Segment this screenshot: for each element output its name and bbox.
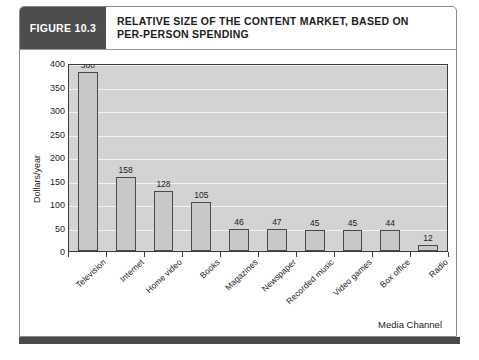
y-axis-tick-350: 350 [36, 83, 65, 93]
x-axis-label: Books [198, 257, 222, 280]
decorative-bottom-band [19, 337, 460, 344]
bar-slot: 45 [334, 65, 372, 251]
x-axis-label: Box office [378, 257, 412, 290]
figure-number-badge: FIGURE 10.3 [20, 7, 106, 49]
bar [229, 229, 249, 251]
bar [418, 245, 438, 251]
chart-area: Dollars/year 050100150200250300350400 38… [20, 50, 456, 338]
bar-slot: 45 [296, 65, 334, 251]
x-axis-label: Newspaper [260, 257, 298, 294]
y-axis-tick-200: 200 [36, 153, 65, 163]
bar-value-label: 47 [258, 217, 296, 227]
bar-value-label: 105 [182, 190, 220, 200]
bar [305, 230, 325, 251]
bar-value-label: 128 [145, 179, 183, 189]
y-axis-tick-250: 250 [36, 130, 65, 140]
x-axis-label: Radio [427, 257, 450, 279]
bar-slot: 46 [220, 65, 258, 251]
x-axis-label: Television [74, 257, 108, 290]
bar-value-label: 46 [220, 217, 258, 227]
y-axis-tick-50: 50 [36, 224, 65, 234]
bar [267, 229, 287, 251]
bar [78, 72, 98, 251]
bar-slot: 105 [182, 65, 220, 251]
bar-slot: 128 [145, 65, 183, 251]
bar-slot: 380 [69, 65, 107, 251]
figure-title-line-2: PER-PERSON SPENDING [117, 28, 450, 42]
x-axis-label: Magazines [223, 257, 260, 292]
bar [380, 230, 400, 251]
bar-value-label: 12 [409, 233, 447, 243]
bar-value-label: 44 [371, 218, 409, 228]
y-axis-tick-0: 0 [36, 247, 65, 257]
x-axis-label: Internet [118, 257, 146, 284]
y-axis-tick-100: 100 [36, 200, 65, 210]
y-axis-tick-300: 300 [36, 106, 65, 116]
x-tick-mark [448, 252, 449, 257]
x-axis-title: Media Channel [378, 319, 442, 330]
figure-container: FIGURE 10.3 RELATIVE SIZE OF THE CONTENT… [19, 6, 457, 337]
bar [191, 202, 211, 251]
figure-title: RELATIVE SIZE OF THE CONTENT MARKET, BAS… [106, 7, 456, 49]
figure-title-line-1: RELATIVE SIZE OF THE CONTENT MARKET, BAS… [117, 15, 450, 29]
x-axis-tick-labels: TelevisionInternetHome videoBooksMagazin… [68, 255, 448, 315]
x-axis-label: Video games [331, 257, 374, 298]
bar-value-label: 45 [296, 218, 334, 228]
bar [154, 191, 174, 251]
bar [343, 230, 363, 251]
bar-value-label: 45 [334, 218, 372, 228]
bar-series: 380158128105464745454412 [69, 65, 447, 251]
bar-value-label: 380 [69, 64, 107, 70]
bar-slot: 47 [258, 65, 296, 251]
figure-header: FIGURE 10.3 RELATIVE SIZE OF THE CONTENT… [20, 7, 456, 50]
plot-area: 380158128105464745454412 [68, 64, 448, 252]
bar-slot: 44 [371, 65, 409, 251]
y-axis-tick-labels: 050100150200250300350400 [36, 64, 65, 252]
y-axis-tick-400: 400 [36, 59, 65, 69]
bar-slot: 158 [107, 65, 145, 251]
bar [116, 177, 136, 251]
x-axis-label: Home video [144, 257, 184, 295]
bar-slot: 12 [409, 65, 447, 251]
bar-value-label: 158 [107, 165, 145, 175]
y-axis-tick-150: 150 [36, 177, 65, 187]
